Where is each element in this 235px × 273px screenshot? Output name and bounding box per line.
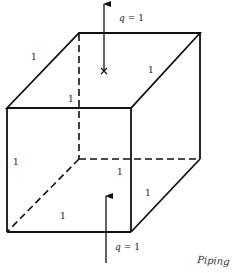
flux-arrow-top <box>101 4 107 74</box>
edge-label-front-left: 1 <box>13 157 19 167</box>
flux-symbol-top: q <box>119 13 125 23</box>
edge-label-right-bottom: 1 <box>145 188 151 198</box>
flux-label-top: q= 1 <box>119 13 144 23</box>
edge-label-front-right: 1 <box>117 167 123 177</box>
right-bottom-edge <box>131 159 200 232</box>
edge-label-top-front: 1 <box>68 94 74 104</box>
edge-label-top-left: 1 <box>31 52 37 62</box>
flux-value-bottom: = 1 <box>124 242 140 252</box>
flux-value-top: = 1 <box>128 13 144 23</box>
edge-label-top-right: 1 <box>148 65 154 75</box>
edge-label-bottom: 1 <box>60 211 66 221</box>
hidden-edge-left-bottom <box>7 159 79 232</box>
cube-diagram: q= 1 q= 1 1 1 1 1 1 1 1 Piping <box>0 0 235 273</box>
flux-symbol-bottom: q <box>115 242 121 252</box>
flux-label-bottom: q= 1 <box>115 242 140 252</box>
handwritten-note: Piping <box>196 254 230 267</box>
